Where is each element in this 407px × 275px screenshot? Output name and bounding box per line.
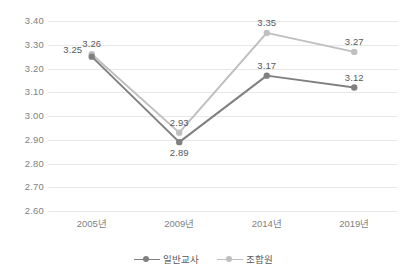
x-axis-tick-label: 2014년 (223, 216, 311, 230)
data-point (351, 84, 357, 90)
x-axis-tick-label: 2009년 (135, 216, 223, 230)
data-point-label: 3.17 (250, 60, 284, 71)
data-point-label: 3.35 (250, 17, 284, 28)
y-axis: 3.403.303.203.103.002.902.802.702.60 (0, 0, 44, 275)
data-point (176, 139, 182, 145)
legend-marker-icon (217, 255, 243, 264)
y-axis-tick-label: 3.20 (2, 63, 44, 74)
plot-area: 3.252.893.173.123.262.933.353.27 (48, 21, 398, 211)
legend-marker-icon (134, 255, 160, 264)
data-point-label: 3.27 (337, 36, 371, 47)
chart-legend: 일반교사조합원 (0, 249, 407, 269)
series-layer (48, 21, 398, 211)
line-chart: 3.403.303.203.103.002.902.802.702.60 3.2… (0, 0, 407, 275)
y-axis-tick-label: 2.80 (2, 158, 44, 169)
x-axis-tick-label: 2005년 (48, 216, 136, 230)
legend-item[interactable]: 일반교사 (134, 252, 199, 266)
data-point (264, 30, 270, 36)
legend-item-label: 일반교사 (163, 252, 199, 266)
y-axis-tick-label: 3.40 (2, 15, 44, 26)
data-point-label: 2.89 (162, 147, 196, 158)
data-point-label: 3.12 (337, 72, 371, 83)
y-axis-tick-label: 2.60 (2, 205, 44, 216)
y-axis-tick-label: 2.90 (2, 134, 44, 145)
data-point (351, 49, 357, 55)
y-axis-tick-label: 3.00 (2, 110, 44, 121)
x-axis: 2005년2009년2014년2019년 (48, 216, 398, 234)
data-point (264, 72, 270, 78)
x-axis-tick-label: 2019년 (310, 216, 398, 230)
data-point-label: 2.93 (162, 117, 196, 128)
y-axis-tick-label: 2.70 (2, 181, 44, 192)
series-line (92, 57, 355, 143)
y-axis-tick-label: 3.10 (2, 86, 44, 97)
legend-item-label: 조합원 (246, 252, 273, 266)
y-axis-tick-label: 3.30 (2, 39, 44, 50)
data-point-label: 3.26 (75, 38, 109, 49)
data-point (176, 129, 182, 135)
gridline (48, 211, 398, 212)
legend-item[interactable]: 조합원 (217, 252, 273, 266)
